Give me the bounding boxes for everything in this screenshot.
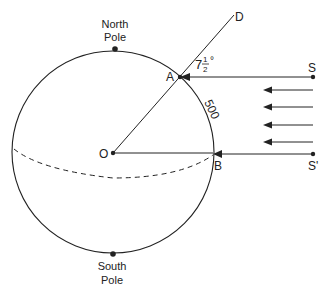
svg-text:2: 2 [203,65,208,74]
label-a: A [166,70,174,84]
arc-distance-label: 500 [201,97,222,121]
label-b: B [214,159,222,173]
earth-diagram: North Pole South Pole A B O D S S' 7 1 2… [0,0,330,296]
north-pole-label-2: Pole [104,31,126,43]
label-o: O [99,147,108,161]
parallel-sunlight-arrows [263,87,313,146]
north-pole-dot [112,46,118,52]
svg-text:1: 1 [203,55,208,64]
label-s: S [308,61,316,75]
svg-text:°: ° [210,55,214,66]
south-pole-label: South [98,260,127,272]
point-o-dot [111,151,115,155]
south-pole-label-2: Pole [101,274,123,286]
north-pole-label: North [102,18,129,30]
point-s-dot [311,75,315,79]
label-d: D [235,10,244,24]
line-o-to-d [113,15,234,153]
point-s-prime-dot [311,152,315,156]
south-pole-dot [110,251,116,257]
point-a-dot [178,75,182,79]
svg-text:7: 7 [195,57,202,72]
label-s-prime: S' [308,159,318,173]
angle-label: 7 1 2 ° [195,55,214,74]
